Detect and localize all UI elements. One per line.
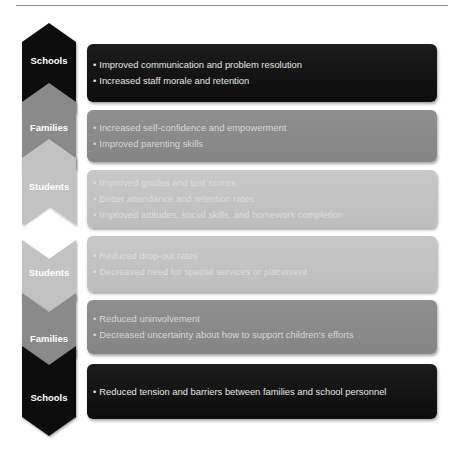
outcome-box-students-top: Improved grades and test scores Better a… [87,170,437,228]
outcome-item: Reduced uninvolvement [93,311,437,327]
outcome-item: Improved attitudes, social skills, and h… [93,207,437,223]
outcome-item: Increased staff morale and retention [93,73,437,89]
outcome-box-families-top: Increased self-confidence and empowermen… [87,110,437,162]
outcome-item: Increased self-confidence and empowermen… [93,120,437,136]
outcome-box-families-bottom: Reduced uninvolvement Decreased uncertai… [87,300,437,354]
label-families-bottom: Families [22,333,76,344]
outcome-box-students-bottom: Reduced drop-out rates Decreased need fo… [87,236,437,292]
outcome-item: Better attendance and retention rates [93,191,437,207]
chevron-column: Schools Families Students Students Famil… [0,0,90,458]
outcome-item: Decreased need for special services or p… [93,264,437,280]
outcome-item: Reduced tension and barriers between fam… [93,384,437,400]
outcome-item: Improved parenting skills [93,136,437,152]
label-schools-bottom: Schools [22,392,76,403]
outcome-item: Reduced drop-out rates [93,248,437,264]
outcome-box-schools-top: Improved communication and problem resol… [87,44,437,102]
label-schools-top: Schools [22,55,76,66]
outcome-box-schools-bottom: Reduced tension and barriers between fam… [87,364,437,419]
label-families-top: Families [22,122,76,133]
outcome-item: Decreased uncertainty about how to suppo… [93,327,437,343]
label-students-bottom: Students [22,267,76,278]
outcome-item: Improved grades and test scores [93,175,437,191]
chevron-arrows-graphic [0,0,90,458]
outcome-item: Improved communication and problem resol… [93,57,437,73]
label-students-top: Students [22,181,76,192]
